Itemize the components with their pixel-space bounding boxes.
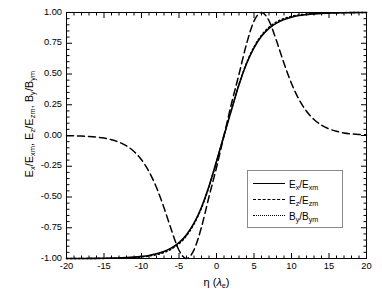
legend-item-label: Ez/Ezm (285, 195, 318, 206)
sub-x: x (28, 166, 37, 170)
x-tick-label: 15 (309, 261, 349, 271)
y-title-seg-ex: Ex/Exm (23, 146, 35, 177)
legend-sub-den: ym (309, 215, 319, 224)
legend-item-label: By/Bym (285, 211, 318, 222)
legend-sub-num: x (296, 183, 300, 192)
legend-line-glyph (253, 183, 285, 184)
legend-sub-num: z (296, 199, 300, 208)
lambda-symbol: λ (216, 276, 221, 288)
legend-sub-den: xm (309, 183, 319, 192)
sub-y: y (28, 91, 37, 95)
legend-item: Ez/Ezm (253, 192, 337, 208)
legend-line-sample-dashed (253, 195, 285, 205)
sub-e: e (222, 281, 226, 290)
x-tick-label: 5 (234, 261, 274, 271)
x-tick-label: 0 (197, 261, 237, 271)
y-title-sep1: , (23, 140, 35, 146)
x-tick-label: -10 (122, 261, 162, 271)
y-title-seg-by: By/Bym (23, 71, 35, 102)
y-title-seg-ez: Ez/Ezm (23, 108, 35, 139)
x-tick-labels: -20-15-10-505101520 (0, 261, 382, 277)
x-axis-title: η (λe) (66, 276, 367, 288)
sub-xm: xm (28, 146, 37, 156)
y-axis-title: Ex/Exm, Ez/Ezm, By/Bym (23, 0, 35, 249)
legend-line-sample-dotted (253, 211, 285, 221)
legend-item: Ex/Exm (253, 176, 337, 192)
sub-z: z (28, 129, 37, 133)
x-tick-label: -20 (47, 261, 87, 271)
sub-zm: zm (28, 108, 37, 118)
sub-ym: ym (28, 71, 37, 81)
figure: 1.000.750.500.250.00-0.25-0.50-0.75-1.00… (0, 0, 382, 304)
legend-item-label: Ex/Exm (285, 179, 318, 190)
legend-item: By/Bym (253, 208, 337, 224)
legend-line-sample-solid (253, 179, 285, 189)
legend-line-glyph (253, 215, 285, 216)
legend-sub-den: zm (309, 199, 319, 208)
x-tick-label: 10 (272, 261, 312, 271)
x-tick-label: 20 (347, 261, 382, 271)
legend: Ex/ExmEz/EzmBy/Bym (247, 170, 343, 228)
legend-sub-num: y (296, 215, 300, 224)
x-tick-label: -15 (84, 261, 124, 271)
legend-line-glyph (253, 199, 285, 200)
x-tick-label: -5 (159, 261, 199, 271)
